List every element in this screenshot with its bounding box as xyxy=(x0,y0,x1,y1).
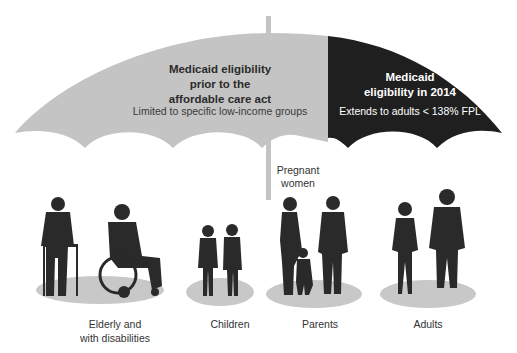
pre-aca-title: Medicaid eligibility prior to the afford… xyxy=(136,62,304,107)
pregnant-women-line-2: women xyxy=(268,177,328,190)
eligibility-2014-subtitle: Extends to adults < 138% FPL xyxy=(330,105,490,117)
diagram-graphics xyxy=(0,0,517,353)
group-label-parents: Parents xyxy=(285,317,355,331)
ground-adults xyxy=(380,280,476,308)
pregnant-women-label: Pregnant women xyxy=(268,164,328,190)
medicaid-umbrella-diagram: Medicaid eligibility prior to the afford… xyxy=(0,0,517,353)
eligibility-2014-title-line-1: Medicaid xyxy=(335,70,485,85)
pregnant-women-line-1: Pregnant xyxy=(268,164,328,177)
eligibility-2014-title-line-2: eligibility in 2014 xyxy=(335,85,485,100)
adults-silhouette-icon xyxy=(392,189,465,294)
ground-children xyxy=(186,278,254,306)
elderly-label-line-1: Elderly and xyxy=(55,317,175,331)
group-label-elderly: Elderly and with disabilities xyxy=(55,317,175,345)
ground-parents xyxy=(266,280,362,308)
pre-aca-subtitle: Limited to specific low-income groups xyxy=(120,105,320,117)
group-label-children: Children xyxy=(195,317,265,331)
pre-aca-title-line-1: Medicaid eligibility xyxy=(136,62,304,77)
umbrella-tip xyxy=(266,16,271,36)
elderly-label-line-2: with disabilities xyxy=(55,331,175,345)
group-label-adults: Adults xyxy=(393,317,463,331)
pre-aca-title-line-2: prior to the xyxy=(136,77,304,92)
eligibility-2014-title: Medicaid eligibility in 2014 xyxy=(335,70,485,100)
